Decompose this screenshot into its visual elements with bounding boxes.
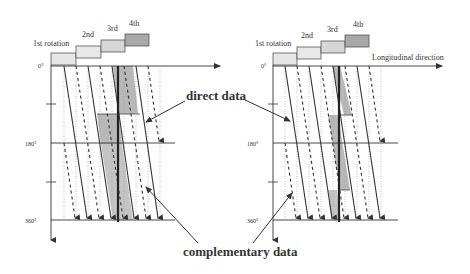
left-panel: 1st rotation 2nd 3rd 4th 0° 180° 360° [25, 19, 220, 240]
rotation-box-3 [321, 41, 345, 53]
rotation-box-3 [101, 40, 125, 52]
helical-scan-diagram: 1st rotation 2nd 3rd 4th 0° 180° 360° [0, 0, 470, 274]
rotation-label-1: 1st rotation [255, 39, 291, 48]
tick-180: 180° [25, 141, 37, 147]
rotation-label-4: 4th [353, 20, 363, 29]
tick-180: 180° [247, 141, 259, 147]
rotation-box-2 [76, 46, 101, 58]
complementary-data-label: complementary data [183, 244, 298, 259]
tick-0: 0° [38, 63, 44, 69]
direct-data-label: direct data [186, 88, 247, 103]
rotation-label-3: 3rd [107, 24, 118, 33]
rotation-box-4 [345, 35, 369, 47]
rotation-box-1 [51, 53, 76, 65]
rotation-label-1: 1st rotation [33, 39, 69, 48]
rotation-label-2: 2nd [301, 31, 313, 40]
tick-0: 0° [261, 63, 267, 69]
rotation-box-1 [273, 53, 297, 65]
rotation-label-3: 3rd [327, 25, 338, 34]
annotations: direct data complementary data [146, 88, 298, 259]
tick-360: 360° [247, 218, 259, 224]
rotation-label-4: 4th [129, 19, 139, 28]
right-panel: 1st rotation 2nd 3rd 4th Longitudinal di… [247, 20, 444, 240]
rotation-box-4 [125, 34, 149, 46]
axis-label-longitudinal: Longitudinal direction [372, 53, 444, 62]
rotation-box-2 [297, 47, 321, 59]
rotation-label-2: 2nd [82, 30, 94, 39]
tick-360: 360° [25, 218, 37, 224]
